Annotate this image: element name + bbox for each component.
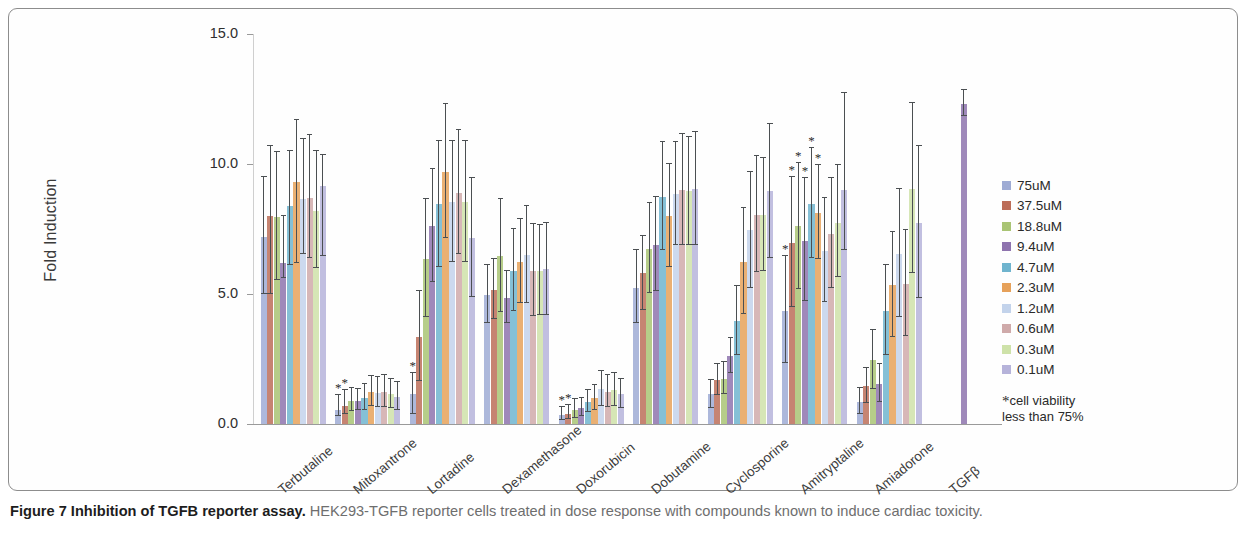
error-cap-upper <box>909 102 915 103</box>
error-bar <box>675 142 676 245</box>
error-cap-upper <box>598 370 604 371</box>
bar-slot <box>618 34 624 424</box>
bar-group: ** <box>559 34 624 424</box>
error-cap-lower <box>443 237 449 238</box>
error-cap-upper <box>349 387 355 388</box>
error-cap-upper <box>734 285 740 286</box>
bar-slot <box>361 34 367 424</box>
y-tick-mark <box>247 424 253 425</box>
significance-star-icon: * <box>565 394 572 402</box>
error-bar <box>419 291 420 381</box>
error-bar <box>338 395 339 416</box>
error-cap-lower <box>666 266 672 267</box>
error-cap-upper <box>883 264 889 265</box>
x-category-label: Lortadine <box>425 449 478 497</box>
error-cap-lower <box>870 388 876 389</box>
error-cap-upper <box>294 119 300 120</box>
error-bar <box>614 373 615 406</box>
error-cap-lower <box>416 380 422 381</box>
error-bar <box>844 93 845 250</box>
error-cap-upper <box>618 378 624 379</box>
error-cap-lower <box>267 293 273 294</box>
error-bar <box>526 206 527 304</box>
significance-star-icon: * <box>782 245 789 253</box>
bar-slot <box>261 34 267 424</box>
bar-slot: * <box>559 34 565 424</box>
error-bar <box>785 256 786 363</box>
bar <box>961 104 967 424</box>
error-bar <box>303 139 304 253</box>
bar-slot <box>355 34 361 424</box>
bar-group <box>961 34 967 424</box>
error-cap-lower <box>714 394 720 395</box>
significance-star-icon: * <box>559 396 566 404</box>
figure-caption: Figure 7 Inhibition of TGFB reporter ass… <box>10 502 1242 521</box>
bar-slot <box>828 34 834 424</box>
bar-slot <box>740 34 746 424</box>
bar-group <box>708 34 773 424</box>
bar-slot <box>504 34 510 424</box>
bar-slot: * <box>335 34 341 424</box>
legend-item: 2.3uM <box>1002 278 1122 299</box>
error-cap-lower <box>841 249 847 250</box>
error-cap-upper <box>300 138 306 139</box>
error-cap-upper <box>491 258 497 259</box>
error-cap-upper <box>660 141 666 142</box>
error-cap-lower <box>394 409 400 410</box>
error-bar <box>270 146 271 294</box>
error-cap-lower <box>469 296 475 297</box>
error-bar <box>649 203 650 293</box>
error-cap-upper <box>961 89 967 90</box>
significance-star-icon: * <box>815 154 822 162</box>
error-bar <box>438 141 439 267</box>
bar-slot <box>708 34 714 424</box>
error-cap-upper <box>714 363 720 364</box>
bar-slot: * <box>565 34 571 424</box>
error-cap-lower <box>307 257 313 258</box>
significance-star-icon: * <box>410 362 417 370</box>
bar-slot <box>666 34 672 424</box>
error-cap-lower <box>294 262 300 263</box>
error-bar <box>879 364 880 402</box>
error-cap-lower <box>611 405 617 406</box>
error-cap-lower <box>449 261 455 262</box>
bar-slot <box>530 34 536 424</box>
error-cap-lower <box>741 313 747 314</box>
error-cap-upper <box>857 387 863 388</box>
y-tick-mark <box>247 34 253 35</box>
error-cap-lower <box>368 405 374 406</box>
error-bar <box>811 148 812 257</box>
error-bar <box>607 375 608 408</box>
error-cap-lower <box>618 407 624 408</box>
legend-footnote: *cell viability less than 75% <box>1002 393 1122 425</box>
bar-slot <box>491 34 497 424</box>
error-cap-upper <box>579 397 585 398</box>
error-cap-lower <box>524 302 530 303</box>
error-bar <box>899 189 900 318</box>
bar-slot <box>287 34 293 424</box>
bar-slot <box>274 34 280 424</box>
bar-slot <box>348 34 354 424</box>
bar-slot <box>734 34 740 424</box>
error-cap-upper <box>611 372 617 373</box>
error-cap-upper <box>666 163 672 164</box>
error-bar <box>283 216 284 278</box>
caption-body: HEK293-TGFB reporter cells treated in do… <box>310 503 983 519</box>
error-cap-upper <box>511 228 517 229</box>
bar-slot <box>524 34 530 424</box>
error-bar <box>316 151 317 268</box>
y-tick-label: 0.0 <box>192 415 238 431</box>
bar-slot <box>896 34 902 424</box>
error-bar <box>695 132 696 245</box>
error-cap-lower <box>721 393 727 394</box>
bar-slot <box>598 34 604 424</box>
y-tick-mark <box>247 164 253 165</box>
bar-slot <box>449 34 455 424</box>
error-cap-lower <box>430 281 436 282</box>
error-bar <box>568 405 569 419</box>
error-bar <box>594 385 595 410</box>
bar-group <box>633 34 698 424</box>
error-cap-lower <box>559 419 565 420</box>
error-bar <box>798 163 799 289</box>
error-bar <box>750 172 751 288</box>
